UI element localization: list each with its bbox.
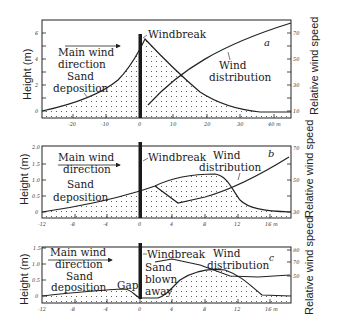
y-axis-label: Height (m) [18, 154, 30, 205]
x-tick: 12 [234, 306, 240, 312]
y2-axis-label: Relative wind speed [303, 217, 315, 315]
label-deposition: deposition [53, 82, 109, 94]
y-tick: 2.0 [31, 144, 41, 150]
x-tick: 0 [138, 121, 142, 127]
x-tick: 10 [170, 121, 177, 127]
label-direction: direction [63, 163, 111, 175]
windbreak-post [139, 34, 143, 118]
label-deposition: deposition [53, 191, 109, 203]
x-tick: -4 [103, 221, 108, 227]
y-tick: 1.0 [32, 177, 41, 183]
label-distribution: distribution [207, 259, 269, 271]
y2-tick: 70 [293, 259, 300, 265]
x-tick: -20 [68, 121, 77, 127]
y2-axis-label: Relative wind speed [308, 17, 320, 115]
y-tick: 0 [35, 209, 39, 215]
x-tick: 0 [138, 221, 142, 227]
y-tick: 1.0 [32, 261, 41, 267]
label-windbreak: Windbreak [148, 28, 207, 40]
x-tick: -12 [38, 306, 46, 312]
label-away: away [145, 285, 173, 297]
y-tick: 1.5 [32, 161, 40, 167]
label-windbreak: Windbreak [147, 248, 206, 260]
x-tick: -8 [70, 221, 75, 227]
y-axis-label: Height (m) [18, 254, 30, 305]
x-tick: 4 [169, 306, 173, 312]
label-blown: blown [145, 273, 177, 285]
x-tick: 40 m [267, 121, 281, 127]
y2-axis-label: Relative wind speed [303, 120, 315, 218]
panel-c: 0 0.5 1.0 1.5 50 70 90 -12 -8 -4 0 4 8 1… [18, 217, 315, 315]
label-wind: Wind [213, 149, 241, 161]
windbreak-post [139, 142, 143, 218]
x-tick: 8 [203, 306, 206, 312]
y-tick: 0.5 [32, 277, 40, 283]
y-tick: 0 [35, 108, 39, 114]
x-tick: -8 [70, 306, 75, 312]
label-deposition: deposition [51, 281, 107, 293]
label-sand: Sand [67, 178, 94, 190]
windbreak-diagram: 0 2 4 6 10 30 50 70 -20 -10 0 10 20 30 4… [0, 0, 341, 329]
panel-letter: a [264, 37, 270, 48]
label-distribution: distribution [209, 71, 271, 83]
y2-tick: 70 [293, 145, 300, 151]
label-wind: Wind [213, 247, 241, 259]
label-distribution: distribution [199, 161, 261, 173]
label-main-wind: Main wind [58, 46, 115, 58]
x-tick: -12 [38, 221, 46, 227]
y2-tick: 30 [293, 209, 300, 215]
y-tick: 6 [35, 30, 39, 36]
y2-tick: 50 [293, 56, 300, 62]
y-tick: 1.5 [33, 245, 41, 251]
y2-tick: 30 [293, 82, 300, 88]
x-tick: 30 [237, 121, 244, 127]
x-tick: 12 [234, 221, 240, 227]
panel-letter: c [269, 253, 274, 263]
y-tick: 2 [34, 82, 38, 88]
label-main-wind: Main wind [50, 246, 107, 258]
label-sand: Sand [67, 70, 94, 82]
panel-b: 0 0.5 1.0 1.5 2.0 30 50 70 -12 -8 -4 0 4… [18, 120, 315, 227]
windbreak-post [139, 243, 143, 299]
y2-tick: 50 [293, 273, 300, 279]
label-sand-blown: Sand [145, 261, 172, 273]
label-direction: direction [55, 258, 103, 270]
x-tick: 4 [169, 221, 173, 227]
label-wind: Wind [219, 59, 247, 71]
y-tick: 0 [35, 293, 39, 299]
y2-tick: 70 [293, 30, 300, 36]
y-tick: 0.5 [32, 193, 40, 199]
label-direction: direction [58, 58, 106, 70]
x-tick: -10 [101, 121, 110, 127]
x-tick: 16 m [265, 306, 278, 312]
y-tick: 4 [34, 56, 38, 62]
y-axis-label: Height (m) [21, 49, 33, 100]
y2-tick: 50 [293, 177, 300, 183]
x-tick: 0 [138, 306, 142, 312]
x-tick: 8 [203, 221, 206, 227]
label-windbreak: Windbreak [148, 151, 207, 163]
y2-tick: 10 [293, 108, 300, 114]
x-tick: -4 [103, 306, 108, 312]
x-tick: 16 m [265, 221, 278, 227]
label-gap: Gap [117, 279, 139, 291]
panel-letter: b [268, 148, 274, 159]
y2-tick: 90 [293, 247, 300, 253]
label-main-wind: Main wind [58, 151, 115, 163]
panel-a: 0 2 4 6 10 30 50 70 -20 -10 0 10 20 30 4… [21, 17, 320, 127]
x-tick: 20 [203, 121, 211, 127]
